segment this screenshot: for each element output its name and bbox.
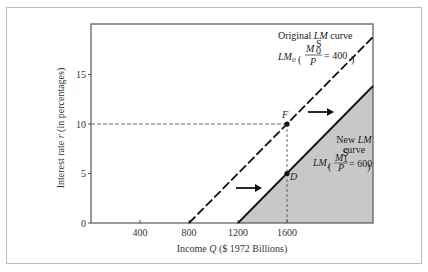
svg-text:0: 0: [316, 45, 321, 56]
shift-arrow-icon: [236, 184, 262, 192]
point-d-label: D: [289, 171, 298, 182]
y-tick-5: 5: [81, 168, 86, 179]
svg-text:P: P: [309, 56, 316, 67]
x-tick-800: 800: [182, 227, 197, 238]
svg-text:): ): [351, 54, 354, 66]
svg-text:(: (: [298, 54, 302, 66]
svg-text:= 400: = 400: [324, 50, 347, 61]
y-axis-title: Interest rate r (in percentages): [55, 68, 67, 189]
x-tick-1600: 1600: [277, 227, 297, 238]
svg-text:P: P: [337, 162, 344, 173]
lm-shift-chart: 0 5 10 15 400 800 1200 1600 Income Q ($ …: [0, 0, 428, 272]
point-f: [284, 121, 289, 126]
svg-text:LM0: LM0: [277, 51, 296, 64]
x-tick-1200: 1200: [228, 227, 248, 238]
point-d: [284, 171, 289, 176]
x-axis-title: Income Q ($ 1972 Billions): [177, 243, 288, 255]
svg-text:): ): [367, 161, 370, 173]
y-tick-0: 0: [81, 218, 86, 229]
y-tick-15: 15: [76, 69, 86, 80]
lm0-formula: LM0 ( M S 0 P = 400 ): [277, 38, 354, 67]
shift-arrow-icon: [308, 108, 334, 116]
y-tick-10: 10: [76, 119, 86, 130]
x-tick-400: 400: [133, 227, 148, 238]
svg-text:M: M: [305, 43, 315, 54]
point-f-label: F: [281, 109, 289, 120]
